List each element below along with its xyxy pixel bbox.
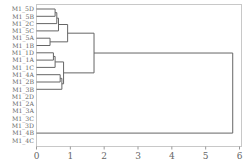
dendrogram-link-n4: [37, 38, 51, 45]
x-tick-label: 2: [101, 151, 107, 161]
dendrogram-link-n6: [37, 53, 54, 60]
x-axis: 0123456: [34, 147, 243, 162]
x-tick-label: 6: [237, 151, 243, 161]
dendrogram-link-n7: [37, 56, 56, 67]
x-tick-label: 4: [169, 151, 175, 161]
dendrogram-link-n2: [37, 13, 57, 24]
leaf-label: M1_4C: [12, 137, 34, 145]
x-tick-label: 5: [203, 151, 209, 161]
dendrogram-link-n1: [37, 9, 56, 16]
x-tick-label: 1: [67, 151, 73, 161]
dendrogram-link-n3: [37, 18, 59, 31]
dendrogram-links: [37, 9, 233, 133]
x-tick-label: 0: [34, 151, 40, 161]
leaf-labels: M1_5DM1_5BM1_2CM1_5CM1_5AM1_1BM1_1DM1_1A…: [12, 5, 35, 144]
x-tick-label: 3: [135, 151, 141, 161]
dendrogram-link-n12: [37, 53, 233, 133]
dendrogram-link-n8: [37, 75, 61, 82]
dendrogram-chart: M1_5DM1_5BM1_2CM1_5CM1_5AM1_1BM1_1DM1_1A…: [0, 0, 248, 164]
dendrogram-link-n9: [37, 78, 62, 89]
dendrogram-link-n11: [64, 33, 94, 73]
